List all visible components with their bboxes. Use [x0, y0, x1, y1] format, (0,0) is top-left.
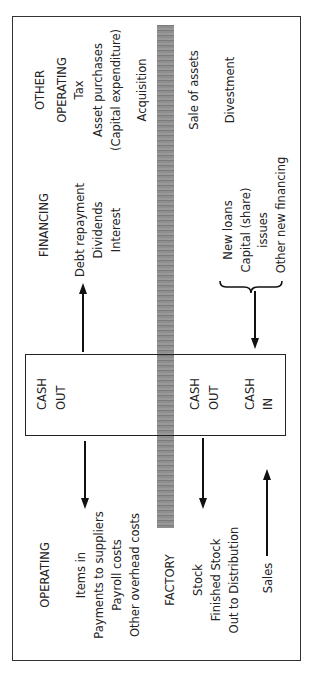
other-operating-in-item: Sale of assets [185, 50, 203, 130]
other-operating-item: (Capital expenditure) [107, 29, 125, 151]
financing-in-item: Capital (share) [237, 188, 255, 273]
arrow-head-icon [81, 498, 89, 509]
operating-heading: OPERATING [36, 542, 54, 608]
financing-in-item: issues [254, 212, 272, 248]
sales-label: Sales [259, 563, 277, 594]
factory-item: Finished Stock [207, 539, 225, 622]
cash-flow-diagram: OTHER OPERATING Tax Asset purchases (Cap… [0, 0, 313, 673]
arrow-head-icon [199, 498, 207, 509]
financing-in-item: New loans [219, 200, 237, 259]
financing-in-item: Other new financing [272, 157, 290, 274]
operating-item: Payroll costs [108, 539, 126, 611]
cash-label: OUT [205, 386, 223, 411]
operating-item: Payments to suppliers [90, 511, 108, 638]
operating-item: Items in [72, 552, 90, 598]
arrow-operating-out [84, 441, 86, 501]
other-operating-item: Acquisition [133, 59, 151, 122]
cash-label: CASH [241, 378, 259, 410]
factory-item: Stock [189, 564, 207, 596]
financing-out-item: Debt repayment [71, 183, 89, 277]
factory-item: Out to Distribution [225, 527, 243, 634]
cash-label: IN [259, 398, 277, 410]
cash-label: CASH [33, 378, 51, 410]
arrow-head-icon [263, 469, 271, 480]
cash-label: OUT [52, 386, 70, 411]
arrow-factory-out [202, 438, 204, 501]
arrow-sales-in [266, 476, 268, 556]
brace-icon [216, 275, 286, 295]
operating-item: Other overhead costs [126, 513, 144, 637]
divider-bar [157, 25, 174, 528]
factory-heading: FACTORY [161, 554, 179, 606]
arrow-financing-out [82, 290, 84, 352]
other-operating-in-item: Divestment [221, 57, 239, 124]
other-operating-item: Asset purchases [89, 43, 107, 137]
financing-out-item: Dividends [89, 201, 107, 258]
financing-out-item: Interest [107, 208, 125, 252]
other-operating-heading-2: OPERATING [53, 57, 71, 123]
cash-label: CASH [186, 378, 204, 410]
arrow-head-icon [251, 338, 259, 349]
other-operating-heading-1: OTHER [31, 70, 49, 110]
financing-heading: FINANCING [35, 193, 53, 257]
other-operating-item: Tax [70, 81, 88, 100]
arrow-head-icon [79, 283, 87, 294]
arrow-financing-in [254, 291, 256, 341]
